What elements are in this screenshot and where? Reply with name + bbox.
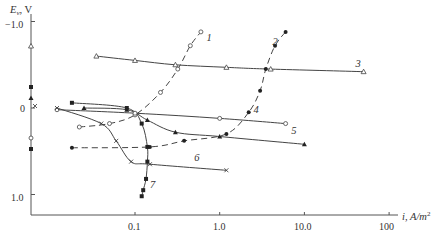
y-axis-title: Ev, V xyxy=(9,4,33,17)
y-tick-label-1: 1.0 xyxy=(11,192,24,203)
x-tick-label-1: 1.0 xyxy=(213,221,226,232)
tick-labels: −1.0 0 1.0 0.1 1.0 10.0 100 xyxy=(5,19,394,232)
filled-square-marker-icon xyxy=(29,85,33,89)
filled-triangle-marker-icon xyxy=(145,118,150,123)
filled-circle-marker-icon xyxy=(258,89,262,93)
filled-square-marker-icon xyxy=(29,147,33,151)
filled-square-marker-icon xyxy=(144,177,148,181)
open-circle-marker-icon xyxy=(284,122,288,126)
open-circle-marker-icon xyxy=(29,136,33,140)
y-axis-markers xyxy=(29,44,38,152)
filled-circle-marker-icon xyxy=(247,110,251,114)
open-circle-marker-icon xyxy=(218,116,222,120)
filled-circle-marker-icon xyxy=(224,132,228,136)
filled-square-marker-icon xyxy=(125,106,129,110)
x-axis-title-sup: 2 xyxy=(427,210,431,218)
curve-4 xyxy=(57,110,286,124)
y-axis-title-unit: , V xyxy=(20,4,33,15)
filled-square-marker-icon xyxy=(141,188,145,192)
curve-label-1: 1 xyxy=(207,32,212,43)
cross-marker-icon xyxy=(33,104,37,108)
filled-circle-marker-icon xyxy=(284,30,288,34)
curve-label-5: 5 xyxy=(291,125,296,136)
curve-5 xyxy=(84,108,304,144)
curve-3 xyxy=(96,56,363,72)
filled-triangle-marker-icon xyxy=(29,96,34,101)
filled-circle-marker-icon xyxy=(70,146,74,150)
open-triangle-marker-icon xyxy=(29,44,34,49)
curve-labels: 1234567 xyxy=(150,32,361,190)
filled-square-marker-icon xyxy=(140,194,144,198)
x-tick-label-10: 10.0 xyxy=(294,221,312,232)
filled-square-marker-icon xyxy=(140,122,144,126)
curve-label-2: 2 xyxy=(272,36,278,47)
open-circle-marker-icon xyxy=(176,67,180,71)
filled-circle-marker-icon xyxy=(264,67,268,71)
curves xyxy=(57,32,364,196)
y-tick-label-neg1: −1.0 xyxy=(5,19,23,30)
curve-label-6: 6 xyxy=(194,152,200,163)
curve-label-3: 3 xyxy=(354,58,360,69)
open-circle-marker-icon xyxy=(158,90,162,94)
open-circle-marker-icon xyxy=(133,111,137,115)
filled-square-marker-icon xyxy=(145,145,149,149)
filled-circle-marker-icon xyxy=(182,139,186,143)
open-circle-marker-icon xyxy=(108,122,112,126)
curve-label-4: 4 xyxy=(253,104,259,115)
filled-square-marker-icon xyxy=(70,101,74,105)
curve-1 xyxy=(79,32,201,127)
x-tick-label-100: 100 xyxy=(379,221,394,232)
open-circle-marker-icon xyxy=(77,125,81,129)
curve-label-7: 7 xyxy=(150,179,156,190)
x-tick-label-0.1: 0.1 xyxy=(128,221,141,232)
axes xyxy=(31,14,398,215)
filled-square-marker-icon xyxy=(145,160,149,164)
polarization-chart: −1.0 0 1.0 0.1 1.0 10.0 100 Ev, V i, A/m… xyxy=(0,0,437,236)
x-axis-title: i, A/m2 xyxy=(402,210,431,222)
open-circle-marker-icon xyxy=(188,44,192,48)
markers xyxy=(55,30,366,198)
y-tick-label-0: 0 xyxy=(20,103,25,114)
cross-marker-icon xyxy=(114,139,118,143)
open-circle-marker-icon xyxy=(199,30,203,34)
cross-marker-icon xyxy=(129,160,133,164)
x-axis-title-main: i, A/m xyxy=(402,211,427,222)
curve-2 xyxy=(72,32,286,148)
